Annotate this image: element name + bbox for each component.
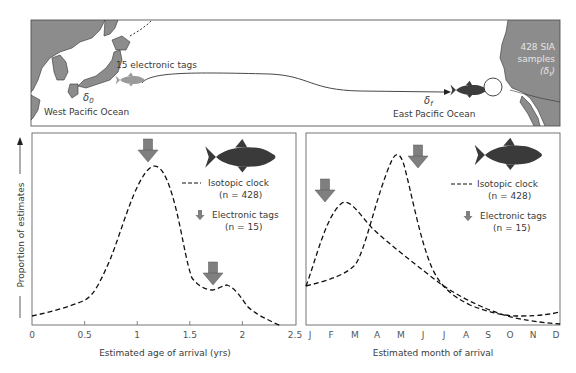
month-tick: J [308, 330, 312, 340]
left-x-axis-label: Estimated age of arrival (yrs) [99, 348, 231, 358]
right-x-axis-label: Estimated month of arrival [373, 348, 494, 358]
legend-tags-n-2: (n = 15) [493, 223, 530, 233]
figure: 15 electronic tags δ0 West Pacific Ocean… [0, 0, 576, 373]
y-axis-arrow-icon [17, 137, 23, 145]
month-tick: M [397, 330, 405, 340]
month-tick: J [442, 330, 446, 340]
tick-0.5: 0.5 [77, 330, 91, 340]
left-x-tick-labels: 0 0.5 1 1.5 2 2.5 [29, 330, 302, 340]
legend-isotopic-n: (n = 428) [219, 190, 262, 200]
tick-2: 2 [240, 330, 246, 340]
month-tick: D [553, 330, 560, 340]
legend-tags-label: Electronic tags [212, 210, 279, 220]
age-of-arrival-plot: 0 0.5 1 1.5 2 2.5 Estimated age of arriv… [29, 133, 302, 358]
west-pacific-label: West Pacific Ocean [44, 107, 129, 117]
tick-2.5: 2.5 [288, 330, 302, 340]
legend-tags-n: (n = 15) [225, 222, 262, 232]
legend-isotopic-label: Isotopic clock [208, 178, 270, 188]
tick-0: 0 [29, 330, 35, 340]
sia-sample-circle [484, 78, 502, 96]
tick-1.5: 1.5 [183, 330, 197, 340]
map-panel: 15 electronic tags δ0 West Pacific Ocean… [31, 20, 560, 126]
legend-tags-label-2: Electronic tags [480, 211, 547, 221]
month-of-arrival-plot: J F M A M J J A S O N D Estimated month … [306, 133, 560, 358]
month-tick: F [328, 330, 333, 340]
sia-line1: 428 SIA [520, 42, 555, 52]
month-tick: O [506, 330, 513, 340]
tick-1: 1 [134, 330, 140, 340]
y-axis-label-group: Proportion of estimates [12, 137, 28, 318]
east-pacific-label: East Pacific Ocean [393, 109, 476, 119]
month-tick: N [530, 330, 537, 340]
legend-isotopic-n-2: (n = 428) [488, 191, 531, 201]
sia-line3: (δt) [540, 66, 555, 77]
month-tick: M [351, 330, 359, 340]
month-tick: S [485, 330, 491, 340]
sia-line2: samples [518, 54, 556, 64]
tag-label: 15 electronic tags [116, 60, 197, 70]
y-axis-label: Proportion of estimates [16, 182, 26, 287]
month-tick: J [421, 330, 425, 340]
legend-isotopic-label-2: Isotopic clock [477, 179, 539, 189]
month-tick: A [463, 330, 470, 340]
month-tick: A [374, 330, 381, 340]
right-x-tick-labels: J F M A M J J A S O N D [308, 330, 560, 340]
